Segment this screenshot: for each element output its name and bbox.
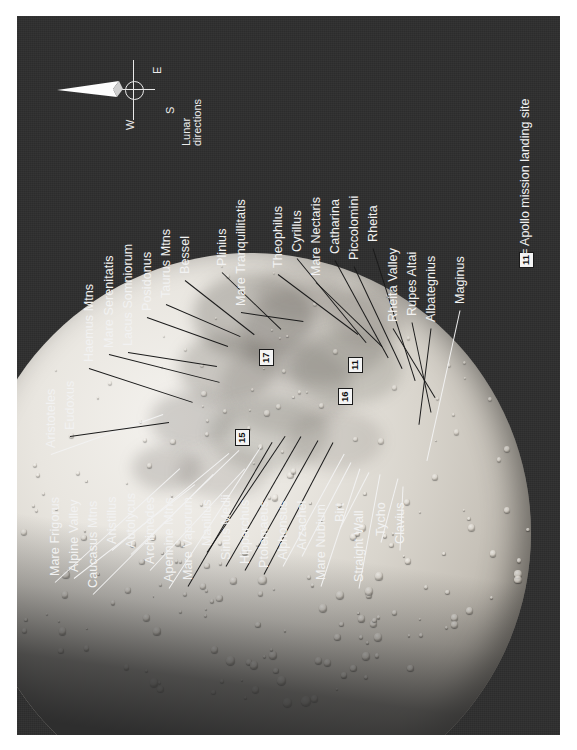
feature-label: Archimedes: [144, 497, 157, 564]
feature-label: Aristillus: [106, 496, 119, 544]
compass-label-south: S: [165, 107, 176, 114]
feature-label: Mare Tranquillitatis: [235, 199, 248, 306]
feature-label: Rheita Valley: [387, 248, 400, 322]
feature-label: Birt: [334, 503, 347, 522]
feature-label: Alphonsus: [277, 501, 290, 560]
compass-needle-icon: [57, 76, 135, 102]
feature-label: Posidonus: [141, 252, 154, 311]
feature-label: Piccolomini: [348, 196, 361, 260]
feature-label: Maginus: [454, 256, 467, 304]
feature-label: Alpine Valley: [68, 499, 81, 572]
apollo-site-marker: 15: [235, 429, 250, 446]
compass-label-east: E: [152, 67, 163, 74]
feature-label: Caucasus Mtns: [87, 501, 100, 588]
figure-page: AristotelesEudoxusHaemus MtnsMare Sereni…: [0, 0, 577, 750]
feature-label: Clavius: [394, 502, 407, 544]
feature-label: Ptolemaeus: [258, 501, 271, 568]
feature-label: Arzachel: [296, 501, 309, 550]
feature-label: Cyrillus: [291, 210, 304, 252]
compass-label-west: W: [125, 120, 136, 130]
feature-label: Eudoxus: [64, 381, 77, 430]
legend-description: = Apollo mission landing site: [519, 99, 532, 256]
feature-label: Apennine Mtns: [163, 497, 176, 582]
feature-label: Mare Serenitatis: [103, 255, 116, 348]
lunar-map-plate: AristotelesEudoxusHaemus MtnsMare Sereni…: [17, 16, 560, 735]
feature-label: Rheita: [367, 205, 380, 242]
feature-label: Albategnius: [425, 256, 438, 322]
feature-label: Autolycus: [125, 493, 138, 548]
feature-label: Mare Nubium: [315, 504, 328, 580]
feature-label: Mare Frigorus: [49, 497, 62, 576]
feature-label: Mare Nectaris: [310, 197, 323, 276]
feature-label: Lacus Somniorum: [122, 244, 135, 346]
feature-label: Tycho: [375, 502, 388, 536]
feature-label: Straight Wall: [353, 510, 366, 582]
apollo-site-marker: 17: [259, 349, 274, 366]
feature-label: Manilius: [201, 499, 214, 546]
feature-label: Hipparchus: [239, 500, 252, 564]
feature-label: Haemus Mtns: [83, 284, 96, 362]
feature-label: Taurus Mtns: [160, 229, 173, 298]
feature-label: Plinius: [216, 228, 229, 266]
feature-label: Aristoteles: [45, 389, 58, 448]
feature-label: Sinus Medii: [220, 494, 233, 560]
feature-label: Mare Vaporum: [182, 497, 195, 580]
feature-label: Catharina: [329, 199, 342, 254]
compass-rose: E W S Lunar directions: [55, 34, 167, 146]
apollo-site-marker: 16: [338, 388, 353, 405]
legend: 11 = Apollo mission landing site: [505, 108, 545, 318]
feature-label: Bessel: [179, 236, 192, 274]
apollo-site-marker: 11: [348, 357, 363, 373]
feature-label: Rupes Altai: [406, 252, 419, 316]
feature-label: Theophilus: [272, 206, 285, 268]
compass-caption: Lunar directions: [181, 99, 203, 146]
